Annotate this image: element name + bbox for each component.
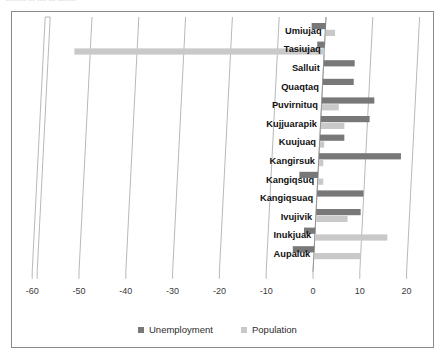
x-tick-label-neg60: -60 — [26, 286, 39, 296]
legend-label-population: Population — [252, 324, 297, 335]
category-label-kujjuarapik: Kujjuarapik — [266, 119, 317, 129]
gridline-neg30 — [173, 17, 186, 279]
bar-unemployment — [323, 79, 354, 85]
category-label-quaqtaq: Quaqtaq — [281, 82, 319, 92]
x-tick-label-20: 20 — [402, 286, 412, 296]
legend: UnemploymentPopulation — [138, 324, 297, 335]
bar-population — [320, 141, 324, 147]
gridline-neg50 — [79, 17, 92, 279]
legend-swatch-population — [241, 327, 247, 333]
gridline-wall-edge — [37, 17, 50, 279]
x-tick-labels-group: -60-50-40-30-20-1001020 — [26, 286, 412, 296]
x-tick-label-neg20: -20 — [213, 286, 226, 296]
category-label-ivujivik: Ivujivik — [281, 212, 313, 222]
gridline-neg20 — [219, 17, 232, 279]
x-tick-label-10: 10 — [355, 286, 365, 296]
bar-population — [318, 179, 323, 185]
category-label-kangiqsuq: Kangiqsuq — [266, 175, 314, 185]
bar-population — [319, 160, 323, 166]
category-label-kuujuaq: Kuujuaq — [279, 137, 317, 147]
gridline-20 — [407, 17, 420, 279]
x-tick-label-neg50: -50 — [72, 286, 85, 296]
bar-population — [322, 104, 339, 110]
bar-population — [321, 123, 344, 129]
category-label-puvirnituq: Puvirnituq — [272, 100, 318, 110]
bars-group — [74, 23, 401, 259]
bar-population — [326, 30, 335, 36]
bar-unemployment — [324, 60, 355, 66]
bar-unemployment — [319, 153, 401, 159]
category-label-umiujaq: Umiujaq — [285, 26, 322, 36]
bar-chart-canvas: UmiujaqTasiujaqSalluitQuaqtaqPuvirnituqK… — [0, 0, 445, 358]
x-tick-label-neg40: -40 — [119, 286, 132, 296]
x-tick-label-neg30: -30 — [166, 286, 179, 296]
category-label-aupaluk: Aupaluk — [274, 249, 312, 259]
bar-unemployment — [321, 116, 370, 122]
bar-unemployment — [322, 97, 374, 103]
legend-swatch-unemployment — [138, 327, 144, 333]
x-tick-label-neg10: -10 — [260, 286, 273, 296]
bar-unemployment — [320, 135, 344, 141]
category-label-kangiqsuaq: Kangiqsuaq — [260, 193, 314, 203]
gridline-neg40 — [126, 17, 139, 279]
bar-unemployment — [317, 190, 363, 196]
chart-root: ......... ... ..., ... ........ UmiujaqT… — [0, 0, 445, 358]
bar-population — [315, 234, 387, 240]
bar-population — [316, 216, 347, 222]
category-label-kangirsuk: Kangirsuk — [270, 156, 316, 166]
category-label-salluit: Salluit — [292, 63, 320, 73]
category-label-tasiujaq: Tasiujaq — [284, 44, 321, 54]
x-tick-label-0: 0 — [310, 286, 315, 296]
bar-population — [314, 253, 360, 259]
category-label-inukjuak: Inukjuak — [274, 230, 313, 240]
bar-unemployment — [316, 209, 360, 215]
category-labels-group: UmiujaqTasiujaqSalluitQuaqtaqPuvirnituqK… — [260, 26, 322, 259]
legend-label-unemployment: Unemployment — [149, 324, 213, 335]
